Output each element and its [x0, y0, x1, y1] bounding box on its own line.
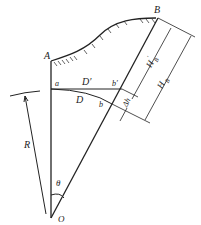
line-o-b	[51, 18, 158, 218]
label-delta-h: Δh	[120, 96, 133, 109]
label-theta: θ	[56, 178, 61, 188]
earth-curvature-diagram: A B a D′ b′ D b Δh R θ O H ′ B H B	[0, 0, 201, 225]
dimension-line-hb	[145, 36, 191, 120]
extension-line-b	[112, 104, 150, 123]
radius-line	[25, 96, 46, 214]
svg-text:B: B	[153, 57, 160, 63]
label-b-point: B	[154, 4, 160, 15]
extension-line-b	[158, 18, 195, 37]
label-a-point: A	[43, 50, 51, 61]
label-r: R	[23, 139, 30, 150]
label-a: a	[55, 79, 59, 88]
label-o: O	[58, 214, 65, 224]
label-hb-prime: H ′ B	[142, 53, 160, 71]
label-d-prime: D′	[81, 76, 92, 87]
svg-text:′: ′	[146, 55, 152, 60]
terrain-profile-curve	[51, 18, 156, 61]
label-b: b	[99, 100, 103, 109]
label-d: D	[75, 94, 84, 105]
terrain-hatching	[54, 19, 155, 66]
earth-surface-arc	[10, 91, 40, 96]
label-b-prime: b′	[112, 79, 118, 88]
